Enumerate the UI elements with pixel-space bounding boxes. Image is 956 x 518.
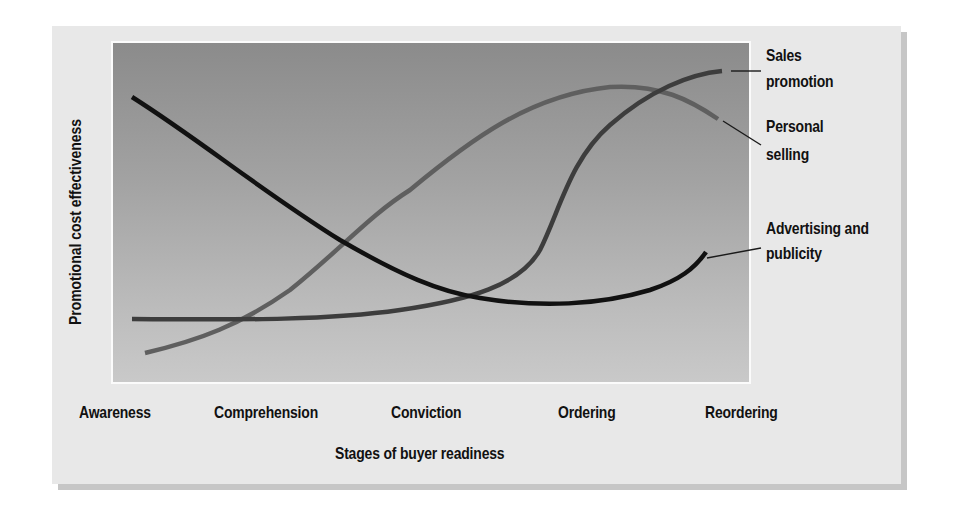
personal-selling-leader-line: [723, 121, 761, 145]
advertising-label-line1: Advertising and: [766, 217, 869, 241]
x-tick-ordering: Ordering: [558, 401, 616, 425]
advertising-leader-line: [707, 248, 761, 258]
advertising-curve: [132, 97, 706, 304]
x-tick-comprehension: Comprehension: [214, 401, 318, 425]
x-tick-conviction: Conviction: [391, 401, 461, 425]
y-axis-title: Promotional cost effectiveness: [65, 115, 87, 328]
x-tick-reordering: Reordering: [705, 401, 778, 425]
advertising-label-line2: publicity: [766, 242, 822, 266]
sales-promotion-label-line1: Sales: [766, 44, 802, 68]
x-axis-title: Stages of buyer readiness: [335, 442, 504, 466]
sales-promotion-label-line2: promotion: [766, 70, 833, 94]
personal-selling-label-line2: selling: [766, 143, 809, 167]
personal-selling-label-line1: Personal: [766, 115, 824, 139]
personal-selling-curve: [145, 87, 718, 353]
x-tick-awareness: Awareness: [79, 401, 151, 425]
